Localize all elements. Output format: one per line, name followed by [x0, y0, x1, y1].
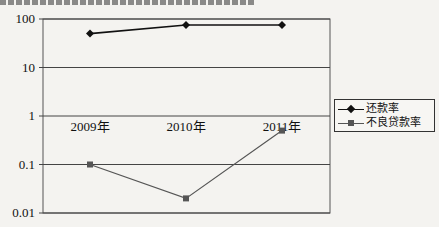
- diamond-marker-icon: [86, 30, 94, 38]
- diamond-marker-icon: [338, 103, 364, 115]
- square-marker-icon: [87, 162, 93, 168]
- y-tick-label: 0.01: [12, 205, 35, 220]
- legend-item-repayment-rate: 还款率: [338, 102, 399, 116]
- y-tick-label: 0.1: [19, 157, 35, 172]
- chart-legend: 还款率 不良贷款率: [334, 99, 435, 132]
- legend-label: 不良贷款率: [366, 117, 421, 129]
- square-marker-icon: [338, 117, 364, 129]
- square-marker-icon: [183, 195, 189, 201]
- square-marker-icon: [279, 128, 285, 134]
- legend-label: 还款率: [366, 103, 399, 115]
- y-tick-label: 1: [29, 108, 36, 123]
- diamond-marker-icon: [278, 21, 286, 29]
- y-tick-label: 100: [16, 11, 36, 26]
- diamond-marker-icon: [182, 21, 190, 29]
- x-category-label: 2010年: [167, 119, 206, 134]
- legend-item-npl-rate: 不良贷款率: [338, 116, 421, 130]
- y-tick-label: 10: [22, 60, 35, 75]
- x-category-label: 2009年: [71, 119, 110, 134]
